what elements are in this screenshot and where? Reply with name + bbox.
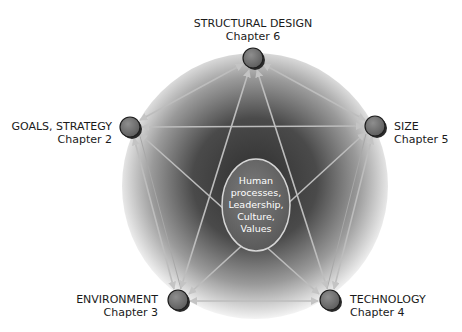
label-technology: TECHNOLOGY Chapter 4 (350, 293, 426, 319)
label-structural-design: STRUCTURAL DESIGN Chapter 6 (183, 17, 323, 43)
core-line: Culture, (237, 211, 275, 223)
node-chapter: Chapter 3 (40, 306, 158, 319)
node-title: GOALS, STRATEGY (4, 120, 112, 133)
node-goals-strategy[interactable] (120, 117, 142, 139)
node-title: SIZE (394, 120, 448, 133)
node-chapter: Chapter 5 (394, 133, 448, 146)
label-environment: ENVIRONMENT Chapter 3 (40, 293, 158, 319)
node-chapter: Chapter 2 (4, 133, 112, 146)
core-text: Human processes, Leadership, Culture, Va… (222, 158, 290, 252)
core-line: Leadership, (228, 199, 283, 211)
arrow-goals-size (142, 126, 363, 127)
node-title: ENVIRONMENT (40, 293, 158, 306)
core-line: Human (239, 175, 273, 187)
node-technology[interactable] (320, 290, 342, 312)
label-size: SIZE Chapter 5 (394, 120, 448, 146)
node-title: TECHNOLOGY (350, 293, 426, 306)
node-chapter: Chapter 4 (350, 306, 426, 319)
node-title: STRUCTURAL DESIGN (183, 17, 323, 30)
label-goals-strategy: GOALS, STRATEGY Chapter 2 (4, 120, 112, 146)
node-chapter: Chapter 6 (183, 30, 323, 43)
core-line: processes, (231, 187, 281, 199)
core-line: Values (240, 223, 271, 235)
